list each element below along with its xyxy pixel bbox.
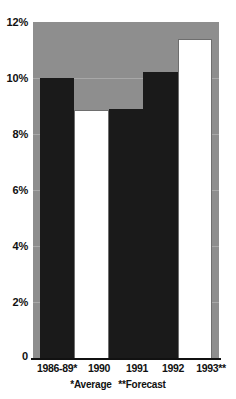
y-tick-label-10: 10% xyxy=(7,72,28,84)
bar-slot-1990 xyxy=(74,22,108,358)
x-tick-label-1993: 1993** xyxy=(196,362,226,374)
bar-slot-1992 xyxy=(143,22,177,358)
bar-chart-figure: 12% 10% 8% 6% 4% 2% 0 xyxy=(0,0,236,399)
bar-slot-1991 xyxy=(109,22,143,358)
chart-footnote: *Average **Forecast xyxy=(0,379,236,390)
x-tick-label-1992: 1992 xyxy=(162,362,184,374)
bar-1992 xyxy=(143,72,177,358)
bar-1991 xyxy=(109,109,143,358)
x-tick-label-1991: 1991 xyxy=(126,362,148,374)
bar-slot-1993 xyxy=(178,22,212,358)
bar-1986-89 xyxy=(40,78,74,358)
y-axis: 12% 10% 8% 6% 4% 2% 0 xyxy=(0,0,31,399)
bar-slot-1986-89 xyxy=(40,22,74,358)
plot-area xyxy=(33,22,219,358)
bars-layer xyxy=(40,22,212,358)
x-axis: 1986-89* 1990 1991 1992 1993** xyxy=(31,362,229,378)
bar-1990 xyxy=(74,110,108,358)
footnote-forecast: **Forecast xyxy=(118,379,165,390)
y-tick-label-4: 4% xyxy=(13,240,29,252)
y-tick-label-12: 12% xyxy=(7,16,28,28)
bar-1993 xyxy=(178,39,212,358)
x-tick-label-1986-89: 1986-89* xyxy=(37,362,77,374)
footnote-average: *Average xyxy=(70,379,111,390)
y-tick-label-2: 2% xyxy=(13,296,29,308)
x-tick-label-1990: 1990 xyxy=(88,362,110,374)
y-tick-label-6: 6% xyxy=(13,184,29,196)
y-tick-label-8: 8% xyxy=(13,128,29,140)
y-tick-label-0: 0 xyxy=(22,350,28,362)
x-axis-line xyxy=(31,358,221,360)
